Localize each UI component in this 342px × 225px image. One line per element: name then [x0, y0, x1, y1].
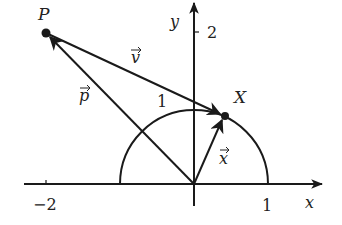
vector-diagram: P X v p x 1 y 2 −2 1 x: [0, 0, 342, 225]
point-p-dot: [42, 29, 51, 38]
point-p-label: P: [37, 4, 50, 24]
y-axis-label: y: [169, 12, 180, 31]
vector-x-arrow: [194, 120, 222, 184]
x-tick-label-neg2: −2: [33, 195, 57, 214]
point-x-label: X: [232, 87, 247, 107]
x-tick-label-1: 1: [262, 196, 272, 215]
radius-label: 1: [157, 92, 167, 111]
y-tick-label-2: 2: [207, 23, 217, 42]
svg-text:v: v: [131, 48, 140, 67]
vector-x-label: x: [219, 147, 229, 168]
vector-p-arrow: [50, 37, 194, 184]
vector-p-label: p: [79, 85, 90, 105]
x-axis-label: x: [305, 193, 314, 212]
vector-v-label: v: [131, 47, 141, 67]
point-x-dot: [221, 112, 229, 120]
svg-text:p: p: [79, 86, 89, 105]
